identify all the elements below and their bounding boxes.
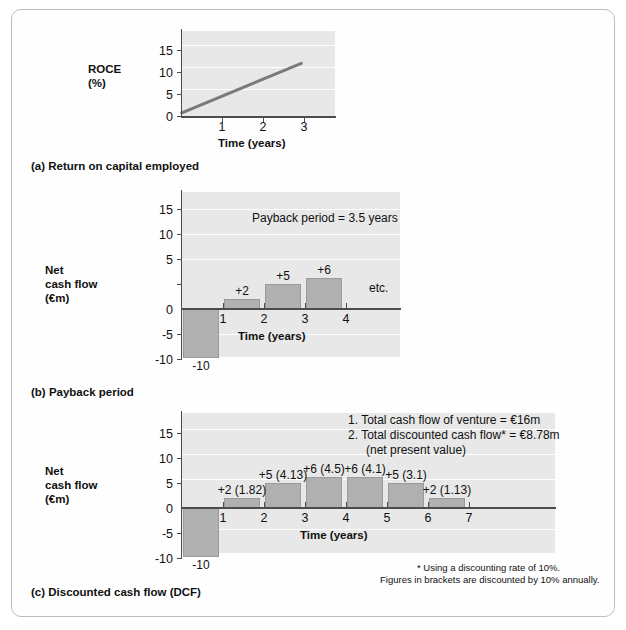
gridline [182, 529, 555, 530]
panel-c-y-tick-label: 10 [141, 452, 173, 466]
panel-c-x-tick-label: 5 [375, 511, 399, 525]
panel-c-y-tick-label: -5 [141, 527, 173, 541]
panel-c-y-tick-label: 15 [141, 427, 173, 441]
y-tick [177, 458, 182, 459]
panel-c-x-tick-label: 1 [211, 511, 235, 525]
y-tick [177, 558, 182, 559]
bar-label-c-year-5-6: +5 (3.1) [364, 468, 448, 482]
panel-c-x-tick-label: 6 [416, 511, 440, 525]
panel-c-x-axis-title: Time (years) [300, 529, 368, 541]
x-tick [305, 502, 306, 507]
y-tick [177, 533, 182, 534]
figure-container: 0 5 10 15 1 2 3 Time (years) ROCE (%) (a… [0, 0, 626, 630]
panel-c-y-tick-label: 0 [141, 502, 173, 516]
y-tick [177, 483, 182, 484]
panel-c-y-tick-label: 5 [141, 477, 173, 491]
panel-c-x-axis [181, 507, 556, 509]
panel-c-footnote-line2: Figures in brackets are discounted by 10… [380, 574, 600, 585]
panel-c-caption: (c) Discounted cash flow (DCF) [31, 586, 201, 598]
panel-c-y-axis-title-line1: Net [45, 465, 64, 477]
panel-c-dcf: -10 +2 (1.82) +5 (4.13) +6 (4.5) +6 (4.1… [0, 0, 626, 630]
x-tick [428, 502, 429, 507]
x-tick [346, 502, 347, 507]
x-tick [387, 502, 388, 507]
panel-c-y-axis-title: Net cash flow (€m) [45, 464, 97, 506]
panel-c-footnote-line1: * Using a discounting rate of 10%. [417, 562, 560, 573]
bar-label-c-year-0-1: -10 [177, 558, 225, 572]
panel-c-y-tick-label: -10 [141, 552, 173, 566]
panel-c-x-tick-label: 7 [457, 511, 481, 525]
x-tick [223, 502, 224, 507]
x-tick [469, 502, 470, 507]
bar-label-c-year-6-7: +2 (1.13) [402, 483, 492, 497]
panel-c-annotation-line1: 1. Total cash flow of venture = €16m [348, 413, 540, 427]
x-tick [264, 502, 265, 507]
y-tick [177, 433, 182, 434]
panel-c-x-tick-label: 4 [334, 511, 358, 525]
panel-c-x-tick-label: 2 [252, 511, 276, 525]
panel-c-annotation-line3: (net present value) [366, 443, 466, 457]
panel-c-y-axis-title-line3: (€m) [45, 493, 69, 505]
panel-c-y-axis-title-line2: cash flow [45, 479, 97, 491]
bar-label-c-year-1-2: +2 (1.82) [197, 483, 287, 497]
panel-c-annotation-line2: 2. Total discounted cash flow* = €8.78m [348, 428, 560, 442]
panel-c-x-tick-label: 3 [293, 511, 317, 525]
